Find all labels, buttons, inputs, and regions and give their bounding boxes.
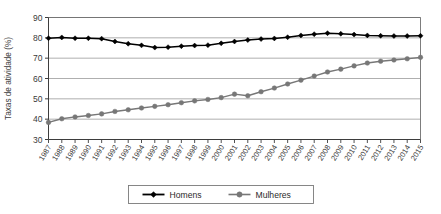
y-axis-tick-label: 50 [33,94,43,104]
x-axis-tick-label: 2008 [316,143,333,162]
chart-legend: HomensMulheres [129,186,314,204]
y-axis-title: Taxas de atividade (%) [4,37,13,120]
x-axis-tick-label: 1996 [156,143,173,162]
y-axis-ticks: 30405060708090 [33,13,48,145]
x-axis-tick-label: 1989 [63,143,80,162]
x-axis-tick-label: 1995 [143,143,160,162]
chart-container: 30405060708090 Taxas de atividade (%) 19… [0,0,441,214]
x-axis-tick-label: 2010 [342,143,359,162]
x-axis-tick-label: 2005 [276,143,293,162]
x-axis-tick-label: 2003 [249,143,266,162]
x-axis-tick-label: 1999 [196,143,213,162]
y-axis-tick-label: 60 [33,74,43,84]
y-axis-label: Taxas de atividade (%) [4,37,13,120]
x-axis-tick-label: 2012 [369,143,386,162]
line-chart: 30405060708090 Taxas de atividade (%) 19… [0,0,441,214]
legend-label: Mulheres [256,190,291,200]
x-axis-tick-label: 1991 [90,143,107,162]
y-axis-tick-label: 90 [33,13,43,23]
x-axis-tick-label: 1988 [50,143,67,162]
y-axis-tick-label: 80 [33,33,43,43]
x-axis-tick-label: 2007 [303,143,320,162]
x-axis-tick-label: 1998 [183,143,200,162]
y-axis-tick-label: 30 [33,135,43,145]
x-axis-tick-label: 1993 [117,143,134,162]
legend-label: Homens [170,190,202,200]
x-axis-tick-label: 1994 [130,143,147,162]
x-axis-tick-label: 2004 [263,143,280,162]
x-axis-tick-label: 2013 [382,143,399,162]
x-axis-tick-label: 2001 [223,143,240,162]
y-axis-tick-label: 40 [33,114,43,124]
x-axis-ticks: 1987198819891990199119921993199419951996… [37,140,426,163]
x-axis-tick-label: 1992 [103,143,120,162]
x-axis-tick-label: 2009 [329,143,346,162]
x-axis-tick-label: 2006 [289,143,306,162]
x-axis-tick-label: 2002 [236,143,253,162]
x-axis-tick-label: 1990 [77,143,94,162]
x-axis-tick-label: 1997 [170,143,187,162]
x-axis-tick-label: 2000 [210,143,227,162]
y-axis-tick-label: 70 [33,53,43,63]
x-axis-tick-label: 2015 [409,143,426,162]
x-axis-tick-label: 1987 [37,143,54,162]
x-axis-tick-label: 2014 [396,143,413,162]
